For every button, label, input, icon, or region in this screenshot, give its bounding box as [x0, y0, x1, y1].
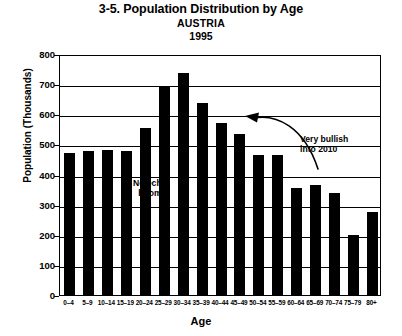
- y-tick-label: 300: [0, 200, 55, 211]
- y-tick-label: 400: [0, 170, 55, 181]
- chart-title-block: 3-5. Population Distribution by Age AUST…: [0, 2, 402, 43]
- bar: [64, 153, 75, 295]
- y-tick-label: 200: [0, 230, 55, 241]
- y-tick-label: 700: [0, 79, 55, 90]
- annotation-no-echo-boom: No echo boom: [133, 178, 167, 198]
- y-tick-label: 500: [0, 139, 55, 150]
- bar: [291, 188, 302, 295]
- bar: [121, 151, 132, 295]
- bar: [197, 103, 208, 295]
- bar: [253, 155, 264, 295]
- y-tick-label: 100: [0, 260, 55, 271]
- y-axis-label: Population (Thousands): [22, 46, 33, 206]
- y-tick-label: 800: [0, 49, 55, 60]
- bar: [216, 123, 227, 295]
- bar-series: [60, 56, 380, 295]
- y-tick-label: 600: [0, 109, 55, 120]
- bar: [329, 193, 340, 295]
- chart-subtitle-country: AUSTRIA: [0, 17, 402, 30]
- bar: [83, 151, 94, 295]
- chart-title: 3-5. Population Distribution by Age: [0, 2, 402, 17]
- bar: [310, 185, 321, 295]
- chart-subtitle-year: 1995: [0, 30, 402, 43]
- y-tick-mark: [54, 296, 59, 297]
- bar: [367, 212, 378, 295]
- bar: [178, 73, 189, 295]
- bar: [348, 235, 359, 295]
- chart-figure: 3-5. Population Distribution by Age AUST…: [0, 0, 402, 336]
- plot-area: No echo boom Very bullish into 2010: [59, 55, 381, 296]
- bar: [272, 155, 283, 295]
- y-tick-label: 0: [0, 290, 55, 301]
- x-axis-label: Age: [0, 315, 402, 327]
- x-tick-label: 80+: [357, 299, 387, 306]
- annotation-very-bullish: Very bullish into 2010: [300, 134, 348, 154]
- bar: [140, 128, 151, 295]
- bar: [102, 150, 113, 296]
- bar: [234, 134, 245, 295]
